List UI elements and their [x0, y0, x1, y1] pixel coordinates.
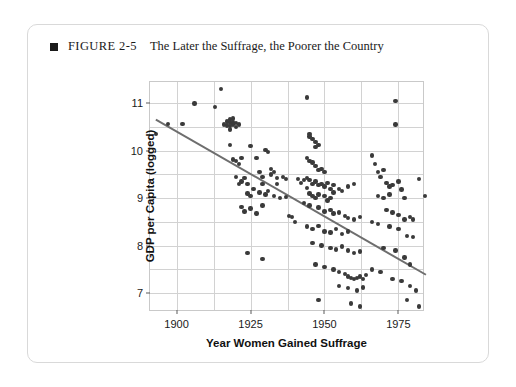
data-point: [305, 95, 309, 99]
y-tick-label: 7: [137, 287, 143, 299]
data-point: [319, 243, 323, 247]
data-point: [381, 168, 385, 172]
data-point: [248, 206, 252, 210]
figure-number: FIGURE 2-5: [68, 39, 137, 54]
data-point: [387, 192, 391, 196]
data-point: [245, 251, 249, 255]
data-point: [257, 190, 261, 194]
data-point: [376, 194, 380, 198]
data-point: [316, 224, 320, 228]
data-point: [384, 208, 388, 212]
x-tick-mark: [324, 310, 325, 314]
data-point: [237, 162, 241, 166]
data-point: [254, 211, 258, 215]
data-point: [239, 156, 243, 160]
data-point: [305, 186, 309, 190]
y-axis-label: GDP per Capita (logged): [144, 130, 156, 263]
data-point: [358, 249, 362, 253]
data-point: [355, 288, 359, 292]
data-point: [234, 175, 238, 179]
data-point: [396, 179, 400, 183]
y-tick-label: 9: [137, 192, 143, 204]
data-point: [393, 99, 397, 103]
data-point: [402, 217, 406, 221]
data-point: [370, 220, 374, 224]
data-point: [331, 183, 335, 187]
data-point: [307, 203, 311, 207]
data-point: [393, 248, 397, 252]
data-point: [387, 224, 391, 228]
data-point: [228, 127, 232, 131]
data-point: [322, 229, 326, 233]
x-tick-mark: [398, 310, 399, 314]
x-tick-label: 1925: [238, 318, 262, 330]
data-point: [352, 217, 356, 221]
data-point: [361, 285, 365, 289]
data-point: [316, 192, 320, 196]
data-point: [260, 257, 264, 261]
data-point: [328, 196, 332, 200]
data-point: [381, 246, 385, 250]
data-point: [257, 170, 261, 174]
data-point: [370, 153, 374, 157]
data-point: [361, 277, 365, 281]
data-point: [248, 194, 252, 198]
data-point: [346, 229, 350, 233]
y-tick-mark: [146, 103, 150, 104]
y-tick-label: 8: [137, 240, 143, 252]
data-point: [390, 183, 394, 187]
x-tick-label: 1950: [312, 318, 336, 330]
data-point: [417, 304, 421, 308]
data-point: [346, 248, 350, 252]
data-point: [322, 209, 326, 213]
data-point: [322, 170, 326, 174]
data-point: [302, 201, 306, 205]
data-point: [245, 182, 249, 186]
data-point: [260, 182, 264, 186]
square-bullet-icon: [50, 43, 58, 51]
data-point: [349, 301, 353, 305]
figure-card: FIGURE 2-5 The Later the Suffrage, the P…: [27, 24, 489, 363]
data-point: [316, 205, 320, 209]
data-point: [331, 190, 335, 194]
data-point: [237, 122, 241, 126]
data-point: [411, 217, 415, 221]
data-point: [260, 203, 264, 207]
data-point: [378, 270, 382, 274]
data-point: [358, 304, 362, 308]
data-point: [378, 175, 382, 179]
figure-header: FIGURE 2-5 The Later the Suffrage, the P…: [50, 39, 384, 54]
data-point: [328, 230, 332, 234]
data-point: [325, 181, 329, 185]
x-tick-mark: [176, 310, 177, 314]
y-tick-label: 11: [132, 97, 143, 109]
data-point: [337, 210, 341, 214]
data-point: [180, 122, 184, 126]
data-point: [231, 116, 235, 120]
data-point: [396, 227, 400, 231]
data-point: [331, 267, 335, 271]
data-point: [402, 255, 406, 259]
data-point: [316, 298, 320, 302]
data-point: [399, 187, 403, 191]
x-axis-label: Year Women Gained Suffrage: [206, 337, 367, 349]
data-point: [390, 277, 394, 281]
data-point: [370, 267, 374, 271]
data-point: [192, 101, 196, 105]
data-point: [310, 227, 314, 231]
data-point: [393, 122, 397, 126]
data-point: [399, 279, 403, 283]
x-tick-label: 1900: [164, 318, 188, 330]
data-point: [322, 194, 326, 198]
data-point: [254, 156, 258, 160]
data-point: [242, 209, 246, 213]
data-point: [260, 175, 264, 179]
data-point: [423, 194, 427, 198]
data-point: [322, 265, 326, 269]
data-point: [313, 262, 317, 266]
y-tick-mark: [146, 293, 150, 294]
data-point: [328, 246, 332, 250]
data-point: [239, 205, 243, 209]
data-point: [331, 211, 335, 215]
data-point: [166, 122, 170, 126]
